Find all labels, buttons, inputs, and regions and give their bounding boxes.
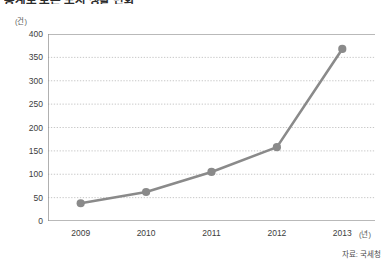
data-point-marker: [77, 199, 85, 207]
y-axis-tick-label: 0: [38, 216, 43, 226]
data-point-markers: [77, 45, 347, 207]
y-axis-tick-label: 250: [29, 99, 43, 109]
y-axis-tick-labels: 400350300250200150100500: [14, 34, 43, 221]
x-axis-tick-label: 2013: [333, 228, 352, 238]
data-point-marker: [338, 45, 346, 53]
source-note: 자료: 국세청: [342, 248, 381, 259]
x-axis-tick-label: 2012: [267, 228, 286, 238]
y-axis-tick-label: 50: [34, 193, 43, 203]
y-axis-tick-label: 350: [29, 52, 43, 62]
y-axis-tick-label: 100: [29, 169, 43, 179]
y-axis-tick-label: 200: [29, 123, 43, 133]
y-axis-tick-label: 300: [29, 76, 43, 86]
page-title: 통계로 보는 도시 생활 변화: [4, 0, 135, 4]
chart-figure: 통계로 보는 도시 생활 변화 (건) 40035030025020015010…: [0, 0, 387, 270]
x-axis-tick-label: 2009: [71, 228, 90, 238]
gridlines: [48, 34, 375, 221]
y-axis-unit-label: (건): [15, 15, 27, 26]
x-axis-tick-labels: 20092010201120122013: [48, 228, 375, 240]
data-line-series: [81, 49, 343, 203]
x-axis-tick-label: 2011: [202, 228, 220, 238]
data-point-marker: [142, 188, 150, 196]
data-point-marker: [273, 143, 281, 151]
y-axis-tick-label: 150: [29, 146, 43, 156]
line-chart-svg: [48, 34, 375, 221]
y-axis-tick-label: 400: [29, 29, 43, 39]
plot-area: [48, 34, 375, 221]
x-axis-tick-label: 2010: [137, 228, 156, 238]
x-axis-unit-label: (년): [359, 228, 371, 239]
data-point-marker: [207, 168, 215, 176]
